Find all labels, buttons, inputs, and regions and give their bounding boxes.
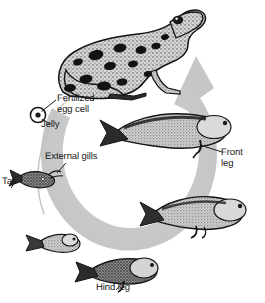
label-tail: Tail bbox=[2, 177, 16, 188]
stage-tadpole-front-legs bbox=[100, 114, 231, 158]
label-front-leg: Front leg bbox=[221, 148, 243, 169]
stage-hatchling-external-gills bbox=[9, 163, 66, 188]
stage-adult-frog bbox=[59, 10, 206, 100]
label-hind-leg: Hind leg bbox=[96, 283, 130, 294]
frog-life-cycle-diagram: Fertilized egg cell Jelly External gills… bbox=[0, 0, 265, 303]
label-external-gills: External gills bbox=[45, 152, 97, 163]
stage-young-tadpole bbox=[26, 234, 80, 252]
label-jelly: Jelly bbox=[41, 120, 60, 131]
stage-tadpole-hind-legs-developed bbox=[140, 197, 246, 238]
label-fertilized-egg-cell: Fertilized egg cell bbox=[57, 94, 95, 115]
